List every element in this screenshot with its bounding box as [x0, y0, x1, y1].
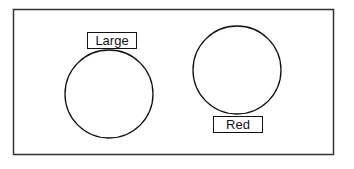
diagram-frame [14, 10, 334, 155]
shape-red-circle: Red [193, 26, 281, 133]
right-circle [193, 26, 281, 114]
diagram-canvas: Large Red [0, 0, 354, 169]
label-large: Large [95, 33, 128, 48]
shape-large-circle: Large [65, 33, 153, 139]
label-red: Red [226, 117, 250, 132]
left-circle [65, 50, 153, 138]
